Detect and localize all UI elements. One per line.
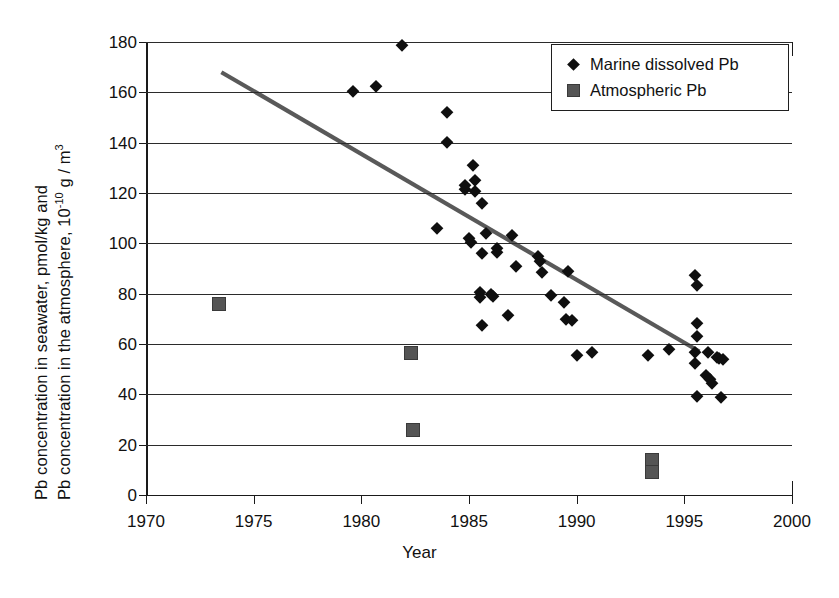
- chart-legend: Marine dissolved Pb Atmospheric Pb: [551, 44, 789, 111]
- data-point-marine-dissolved-pb: [480, 227, 492, 239]
- x-axis-tick-mark: [792, 495, 793, 504]
- x-axis-tick-label: 1975: [219, 513, 289, 530]
- data-point-atmospheric-pb: [645, 465, 659, 479]
- x-axis-tick-mark: [684, 495, 685, 504]
- y-axis-tick-mark: [139, 394, 146, 395]
- data-point-marine-dissolved-pb: [370, 80, 382, 92]
- data-point-marine-dissolved-pb: [691, 279, 703, 291]
- gridline: [146, 193, 792, 194]
- data-point-marine-dissolved-pb: [441, 106, 453, 118]
- y-axis-tick-label: 100: [91, 235, 137, 252]
- gridline: [146, 344, 792, 345]
- y-axis-tick-mark: [139, 294, 146, 295]
- x-axis-tick-mark: [361, 495, 362, 504]
- data-point-marine-dissolved-pb: [469, 185, 481, 197]
- x-axis-tick-label: 1995: [649, 513, 719, 530]
- y-axis-tick-label: 80: [91, 286, 137, 303]
- data-point-marine-dissolved-pb: [571, 349, 583, 361]
- data-point-marine-dissolved-pb: [502, 309, 514, 321]
- diamond-marker-icon: [562, 60, 584, 69]
- legend-label-atmospheric: Atmospheric Pb: [590, 81, 706, 100]
- data-point-marine-dissolved-pb: [545, 289, 557, 301]
- data-point-marine-dissolved-pb: [562, 265, 574, 277]
- data-point-marine-dissolved-pb: [558, 296, 570, 308]
- y-axis-tick-label: 120: [91, 185, 137, 202]
- y-axis-tick-label: 180: [91, 34, 137, 51]
- data-point-atmospheric-pb: [212, 297, 226, 311]
- x-axis-tick-label: 1970: [111, 513, 181, 530]
- x-axis-tick-mark: [469, 495, 470, 504]
- x-axis-tick-mark: [577, 495, 578, 504]
- data-point-marine-dissolved-pb: [566, 314, 578, 326]
- data-point-marine-dissolved-pb: [715, 391, 727, 403]
- y-axis-tick-label: 160: [91, 84, 137, 101]
- chart-figure: Pb concentration in seawater, pmol/kg an…: [0, 0, 839, 598]
- right-axis-tick-bottom: [792, 481, 793, 495]
- square-marker-icon: [562, 84, 584, 97]
- data-point-atmospheric-pb: [406, 423, 420, 437]
- gridline: [146, 294, 792, 295]
- data-point-marine-dissolved-pb: [510, 260, 522, 272]
- data-point-marine-dissolved-pb: [689, 346, 701, 358]
- data-point-marine-dissolved-pb: [691, 330, 703, 342]
- data-point-marine-dissolved-pb: [467, 159, 479, 171]
- y-axis-tick-mark: [139, 193, 146, 194]
- y-axis-tick-mark: [139, 344, 146, 345]
- data-point-marine-dissolved-pb: [431, 222, 443, 234]
- data-point-marine-dissolved-pb: [476, 319, 488, 331]
- y-axis-tick-mark: [139, 42, 146, 43]
- gridline: [146, 42, 792, 43]
- data-point-marine-dissolved-pb: [536, 266, 548, 278]
- y-axis-tick-mark: [139, 445, 146, 446]
- data-point-marine-dissolved-pb: [476, 197, 488, 209]
- gridline: [146, 445, 792, 446]
- y-axis-tick-label: 60: [91, 336, 137, 353]
- x-axis-tick-label: 1985: [434, 513, 504, 530]
- y-axis-tick-mark: [139, 495, 146, 496]
- data-point-marine-dissolved-pb: [506, 229, 518, 241]
- x-axis-tick-mark: [254, 495, 255, 504]
- x-axis-tick-label: 1980: [326, 513, 396, 530]
- legend-item-atmospheric: Atmospheric Pb: [562, 77, 774, 103]
- y-axis-tick-mark: [139, 92, 146, 93]
- data-point-marine-dissolved-pb: [476, 247, 488, 259]
- legend-label-marine: Marine dissolved Pb: [590, 55, 739, 74]
- data-point-marine-dissolved-pb: [586, 346, 598, 358]
- data-point-marine-dissolved-pb: [396, 39, 408, 51]
- legend-item-marine: Marine dissolved Pb: [562, 51, 774, 77]
- data-point-marine-dissolved-pb: [689, 357, 701, 369]
- y-axis-tick-label: 20: [91, 437, 137, 454]
- right-axis-tick-top: [792, 42, 793, 56]
- x-axis-tick-label: 2000: [757, 513, 827, 530]
- y-axis-tick-label: 0: [91, 487, 137, 504]
- y-axis-tick-label: 40: [91, 386, 137, 403]
- x-axis-tick-mark: [146, 495, 147, 504]
- data-point-atmospheric-pb: [404, 346, 418, 360]
- x-axis-title: Year: [0, 543, 839, 563]
- y-axis-tick-mark: [139, 243, 146, 244]
- data-point-marine-dissolved-pb: [642, 349, 654, 361]
- y-axis-tick-mark: [139, 143, 146, 144]
- gridline: [146, 143, 792, 144]
- x-axis-tick-label: 1990: [542, 513, 612, 530]
- data-point-marine-dissolved-pb: [691, 390, 703, 402]
- data-point-marine-dissolved-pb: [691, 317, 703, 329]
- y-axis-tick-label: 140: [91, 135, 137, 152]
- data-point-marine-dissolved-pb: [441, 136, 453, 148]
- y-axis-line: [146, 42, 148, 495]
- data-point-marine-dissolved-pb: [347, 85, 359, 97]
